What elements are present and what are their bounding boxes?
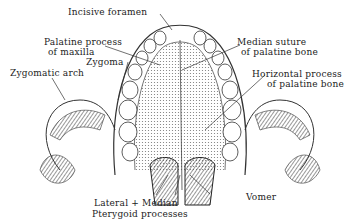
label-palatine-process-1: Palatine process — [44, 38, 122, 47]
zygomatic-shade-right — [255, 110, 310, 140]
label-horizontal-process-2: of palatine bone — [267, 80, 344, 89]
label-zygomatic-arch: Zygomatic arch — [10, 69, 84, 78]
choana-right — [185, 158, 215, 206]
label-vomer: Vomer — [246, 193, 276, 202]
label-palatine-process-2: of maxilla — [48, 48, 95, 57]
zygomatic-shade-left — [50, 110, 105, 140]
label-median-suture-2: of palatine bone — [241, 48, 318, 57]
label-zygoma: Zygoma — [86, 58, 124, 67]
palate-drawing — [0, 0, 360, 223]
label-pterygoid-2: Pterygoid processes — [92, 210, 188, 219]
temporal-shade-left — [40, 155, 75, 183]
label-pterygoid-1: Lateral + Median — [94, 199, 178, 208]
label-horizontal-process-1: Horizontal process — [252, 70, 342, 79]
label-incisive-foramen: Incisive foramen — [68, 8, 147, 17]
label-median-suture-1: Median suture — [237, 38, 306, 47]
temporal-shade-right — [285, 155, 320, 183]
